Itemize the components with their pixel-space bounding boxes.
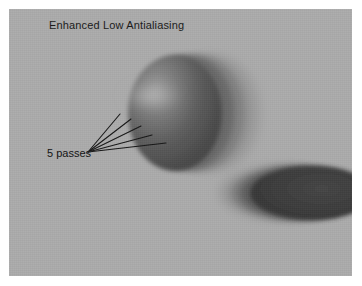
leader-line-1 [88,114,120,152]
sphere-body [121,55,222,171]
sphere-specular-highlight [121,82,183,110]
figure-root: Enhanced Low Antialiasing 5 passes [0,0,362,286]
callout-label: 5 passes [47,147,91,159]
leader-line-2 [88,119,131,152]
sphere-pass-1 [128,55,222,171]
render-canvas [9,9,352,276]
render-scene [9,9,352,276]
figure-title: Enhanced Low Antialiasing [49,19,184,31]
